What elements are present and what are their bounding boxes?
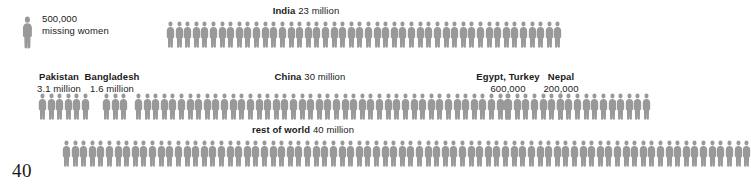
key-figure-group <box>22 16 33 49</box>
key-caption: missing women <box>42 25 109 37</box>
label-bangladesh: Bangladesh 1.6 million <box>85 71 140 94</box>
label-nepal-name: Nepal <box>548 71 574 82</box>
label-india: India 23 million <box>273 5 340 17</box>
label-rest-of-world-name: rest of world <box>252 124 310 135</box>
label-egypt-turkey: Egypt, Turkey 600,000 <box>476 71 539 94</box>
pictogram-china <box>134 93 651 120</box>
pictogram-bangladesh <box>102 93 128 120</box>
label-rest-of-world: rest of world 40 million <box>252 124 354 136</box>
label-egypt-turkey-name: Egypt, Turkey <box>476 71 539 82</box>
label-china: China 30 million <box>275 71 346 83</box>
label-india-name: India <box>273 5 296 16</box>
pictogram-rest-of-world <box>62 140 751 167</box>
label-china-name: China <box>275 71 302 82</box>
key-value: 500,000 <box>42 13 77 24</box>
label-pakistan: Pakistan 3.1 million <box>37 71 81 94</box>
label-pakistan-name: Pakistan <box>39 71 79 82</box>
page-number: 40 <box>12 160 32 182</box>
key-label: 500,000 missing women <box>42 13 109 36</box>
label-rest-of-world-amount: 40 million <box>313 124 354 135</box>
pictogram-pakistan <box>38 93 90 120</box>
label-nepal: Nepal 200,000 <box>543 71 578 94</box>
pictogram-nepal <box>556 93 565 120</box>
label-bangladesh-name: Bangladesh <box>85 71 140 82</box>
label-china-amount: 30 million <box>304 71 345 82</box>
pictogram-india <box>166 21 562 48</box>
label-india-amount: 23 million <box>298 5 339 16</box>
pictogram-egypt-turkey <box>503 93 512 120</box>
